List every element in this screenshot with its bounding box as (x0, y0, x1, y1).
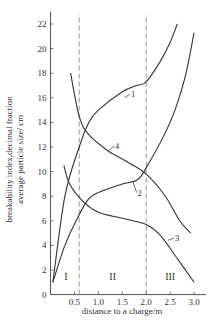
y-tick-label: 4 (42, 240, 47, 250)
y-tick-label: 2 (42, 265, 47, 275)
y-axis-label-line: average particle size/ cm (15, 115, 25, 204)
curve-label-leader (125, 94, 130, 98)
x-tick-label: 0.5 (69, 297, 81, 307)
curve-label-1: 1 (131, 89, 135, 99)
zone-label: II (109, 271, 116, 282)
y-tick-label: 20 (38, 44, 48, 54)
x-tick-label: 2.5 (165, 297, 177, 307)
y-tick-label: 6 (42, 216, 47, 226)
y-axis-label: breakability index,decimal fractionavera… (4, 96, 25, 223)
curve-label-2: 2 (138, 188, 142, 198)
chart: breakability index,decimal fractionavera… (0, 0, 223, 331)
curve-label-leader (109, 146, 114, 151)
y-tick-label: 22 (38, 19, 47, 29)
curve-label-leader (133, 181, 137, 192)
curves (53, 24, 194, 282)
x-tick-label: 3.0 (188, 297, 200, 307)
y-axis-label-line: breakability index,decimal fraction (4, 96, 14, 223)
y-tick-label: 18 (38, 68, 48, 78)
curve-1 (53, 24, 177, 282)
curve-label-3: 3 (175, 233, 179, 243)
x-axis-label: distance to a charge/m (82, 306, 163, 316)
curve-label-4: 4 (115, 141, 120, 151)
curve-labels: 1234 (109, 89, 179, 243)
y-tick-label: 8 (42, 191, 47, 201)
curve-2 (53, 33, 194, 283)
y-tick-label: 16 (38, 93, 48, 103)
y-tick-label: 12 (38, 142, 47, 152)
curve-label-leader (168, 238, 174, 240)
y-tick-label: 0 (42, 290, 47, 300)
zone-label: I (64, 271, 67, 282)
y-tick-label: 14 (38, 117, 48, 127)
y-tick-label: 10 (38, 167, 48, 177)
zone-boundaries: IIIIII (64, 14, 175, 294)
zone-label: III (165, 271, 175, 282)
